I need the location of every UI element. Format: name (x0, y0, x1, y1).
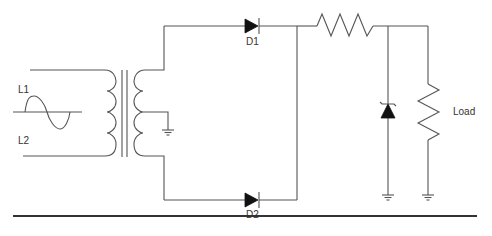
diode-d1-icon (245, 19, 258, 33)
circuit-diagram: L1 L2 D1 D2 (0, 0, 492, 236)
ground-icon (422, 195, 434, 200)
ground-icon (162, 130, 174, 135)
label-d1: D1 (246, 36, 259, 47)
diode-d2-icon (245, 193, 258, 207)
zener-diode (380, 26, 396, 200)
label-load: Load (453, 106, 475, 117)
label-l1: L1 (18, 84, 30, 95)
load-resistor: Load (418, 26, 475, 200)
transformer (105, 26, 174, 200)
diode-d1: D1 (164, 18, 297, 47)
ground-icon (382, 195, 394, 200)
load-resistor-icon (418, 84, 439, 140)
secondary-coil (134, 70, 145, 156)
label-l2: L2 (18, 135, 30, 146)
zener-diode-icon (381, 104, 395, 118)
label-d2: D2 (246, 209, 259, 220)
primary-coil (105, 70, 116, 156)
secondary-bottom-lead (145, 156, 164, 200)
ac-source: L1 L2 (13, 70, 105, 156)
resistor-icon (317, 14, 373, 36)
secondary-top-lead (145, 26, 164, 70)
center-tap-lead (143, 112, 168, 130)
series-resistor (297, 14, 428, 36)
